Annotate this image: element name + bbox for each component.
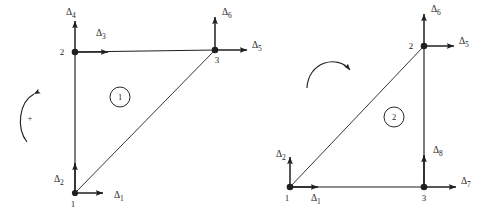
node-dot-1: [72, 190, 78, 196]
element-1-group: 1 2 3 Δ1 Δ2 Δ3 Δ4 Δ5 Δ6 1: [20, 7, 262, 209]
node-dot-3: [212, 47, 219, 54]
element-number-2: 2: [392, 112, 396, 122]
dof-label-delta-5: Δ5: [459, 36, 469, 49]
element-number-1: 1: [118, 92, 122, 102]
edge-3-1: [75, 50, 215, 193]
dof-label-delta-6: Δ6: [222, 7, 232, 20]
node-dot-2: [421, 43, 428, 50]
dof-label-delta-2: Δ2: [54, 174, 64, 187]
node-label-1: 1: [71, 199, 76, 209]
dof-label-delta-3: Δ3: [96, 28, 106, 41]
node-label-1: 1: [285, 193, 290, 203]
element-2-group: 1 2 3 Δ1 Δ2 Δ5 Δ6 Δ7 Δ8 2: [276, 4, 471, 206]
dof-label-delta-7: Δ7: [461, 176, 471, 189]
element-1-edges: [75, 50, 215, 193]
finite-element-diagram: 1 2 3 Δ1 Δ2 Δ3 Δ4 Δ5 Δ6 1: [0, 0, 487, 224]
node-dot-2: [72, 49, 79, 56]
node-dot-1: [287, 184, 294, 191]
node-dot-3: [421, 184, 428, 191]
dof-label-delta-5: Δ5: [252, 40, 262, 53]
rotation-arrow-cw-icon: [307, 62, 350, 88]
node-label-2: 2: [409, 41, 414, 51]
dof-label-delta-1: Δ1: [114, 190, 124, 203]
dof-label-delta-2: Δ2: [276, 149, 286, 162]
dof-label-delta-6: Δ6: [431, 4, 441, 17]
node-label-2: 2: [60, 47, 65, 57]
dof-label-delta-4: Δ4: [66, 7, 76, 20]
figure-canvas: 1 2 3 Δ1 Δ2 Δ3 Δ4 Δ5 Δ6 1: [0, 0, 487, 224]
node-label-3: 3: [215, 55, 220, 65]
node-label-3: 3: [422, 193, 427, 203]
dof-label-delta-8: Δ8: [433, 145, 443, 158]
rotation-sign-label: +: [28, 114, 33, 123]
dof-label-delta-1: Δ1: [311, 193, 321, 206]
